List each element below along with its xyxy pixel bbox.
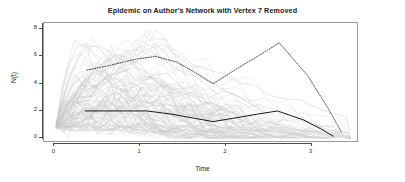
x-tick-mark <box>53 143 54 146</box>
x-axis-line <box>53 143 311 144</box>
y-tick-label: 6 <box>26 51 37 57</box>
y-tick-label: 2 <box>26 106 37 112</box>
y-tick-mark <box>39 110 42 111</box>
y-axis-title: N(t) <box>10 58 17 98</box>
y-tick-mark <box>39 28 42 29</box>
x-tick-label: 0 <box>46 148 60 154</box>
y-tick-mark <box>39 55 42 56</box>
plot-area <box>43 22 358 142</box>
x-tick-label: 3 <box>304 148 318 154</box>
x-tick-label: 1 <box>132 148 146 154</box>
x-tick-mark <box>225 143 226 146</box>
y-axis-line <box>42 23 43 139</box>
chart-title: Epidemic on Author's Network with Vertex… <box>0 6 405 15</box>
y-tick-mark <box>39 83 42 84</box>
y-tick-mark <box>39 137 42 138</box>
y-tick-label: 8 <box>26 24 37 30</box>
x-tick-mark <box>311 143 312 146</box>
x-tick-label: 2 <box>218 148 232 154</box>
x-axis-title: Time <box>0 165 405 172</box>
y-tick-label: 4 <box>26 79 37 85</box>
background-trajectories-group <box>56 30 350 138</box>
background-trajectory <box>56 48 350 139</box>
y-tick-label: 0 <box>26 133 37 139</box>
x-tick-mark <box>139 143 140 146</box>
chart-figure: Epidemic on Author's Network with Vertex… <box>0 0 405 182</box>
series-canvas <box>44 23 358 142</box>
